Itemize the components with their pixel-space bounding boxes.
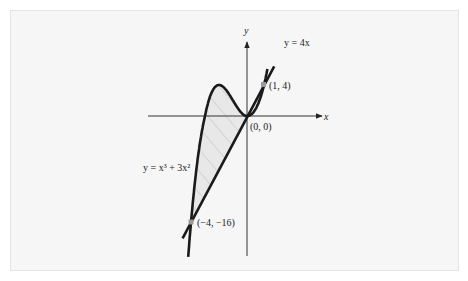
y-axis-label: y [243,25,249,36]
x-axis-label: x [323,111,329,122]
point-origin-label: (0, 0) [250,121,272,133]
line-label: y = 4x [284,37,310,48]
point-lower-marker [189,220,194,225]
point-lower-label: (−4, −16) [197,217,235,229]
cubic-label: y = x³ + 3x² [143,162,190,173]
plot-area: x y y = 4x y = x³ + 3x² (0, 0) (1, 4) (−… [0,0,468,281]
point-upper-label: (1, 4) [269,80,291,92]
point-upper-marker [261,82,266,87]
